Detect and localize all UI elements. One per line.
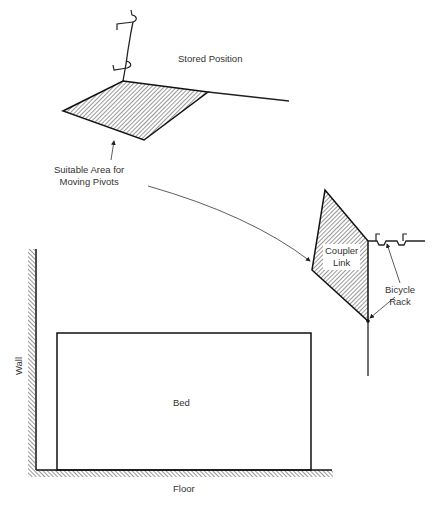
deployed-bicycle-rack [368,234,425,245]
rack-leader-arrow [387,244,400,283]
label-floor: Floor [173,483,195,495]
floor [28,470,333,477]
label-bicycle-rack: Bicycle Rack [385,284,415,308]
label-coupler-link: Coupler Link [323,244,360,270]
label-bicycle-line1: Bicycle [385,284,415,296]
label-bicycle-line2: Rack [385,296,415,308]
leader-arrow-right [148,186,310,261]
label-coupler-line1: Coupler [325,245,358,257]
label-suitable-area-line1: Suitable Area for [54,164,124,176]
mechanism-diagram [0,0,447,505]
label-suitable-area: Suitable Area for Moving Pivots [54,164,124,188]
wall [28,249,36,470]
label-suitable-area-line2: Moving Pivots [54,176,124,188]
label-coupler-line2: Link [325,257,358,269]
leader-arrow-top [111,141,114,160]
label-stored-position: Stored Position [178,53,242,65]
stored-bicycle-rack [113,10,136,81]
stored-link-arm [208,92,289,101]
label-bed: Bed [173,397,190,409]
stored-pivot-area [63,81,208,140]
label-wall: Wall [13,357,25,375]
